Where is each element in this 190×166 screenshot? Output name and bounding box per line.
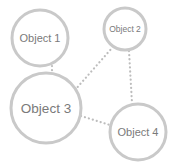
connector-n2-n4 [129,51,132,103]
network-diagram: Object 1Object 2Object 3Object 4 [0,0,190,166]
node-object-3: Object 3 [11,73,81,143]
connector-n3-n2 [75,48,112,90]
node-object-2: Object 2 [104,8,146,50]
connector-n3-n4 [81,116,110,125]
node-object-1: Object 1 [12,10,68,66]
node-label: Object 4 [118,126,159,138]
nodes-layer: Object 1Object 2Object 3Object 4 [11,8,166,160]
node-label: Object 2 [109,24,141,34]
node-object-4: Object 4 [110,104,166,160]
node-label: Object 1 [20,32,61,44]
diagram-canvas: Object 1Object 2Object 3Object 4 [0,0,190,166]
node-label: Object 3 [21,101,71,116]
